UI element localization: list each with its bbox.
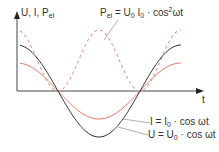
current-formula: I = I0 · cos ωt — [150, 117, 209, 128]
ac-power-diagram: U, I, Pel t Pel = U0 I0 · cos2ωt I = I0 … — [0, 0, 219, 152]
voltage-formula: U = U0 · cos ωt — [148, 130, 216, 141]
power-curve — [20, 30, 181, 91]
y-axis-arrow-icon — [14, 11, 20, 19]
x-axis-label: t — [202, 95, 205, 105]
power-leader-line — [104, 20, 118, 40]
power-formula: Pel = U0 I0 · cos2ωt — [100, 6, 183, 19]
current-leader-line — [123, 119, 150, 123]
y-axis-label: U, I, Pel — [21, 8, 54, 19]
voltage-leader-line — [118, 127, 148, 135]
axes — [14, 11, 204, 94]
